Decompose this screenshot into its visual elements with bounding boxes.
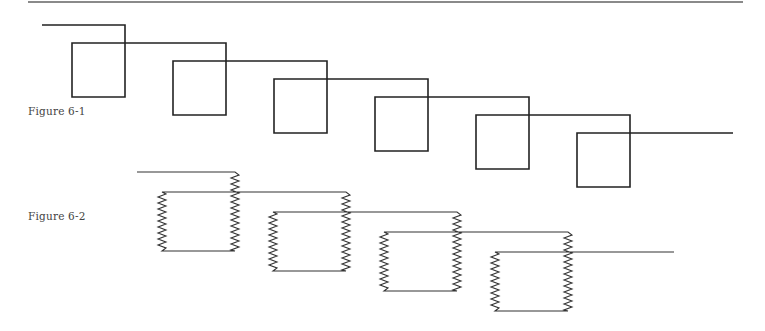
figure-6-1-looped-line bbox=[42, 25, 733, 187]
diagram-canvas bbox=[0, 0, 765, 331]
figure-6-2-spring-line bbox=[137, 172, 674, 311]
